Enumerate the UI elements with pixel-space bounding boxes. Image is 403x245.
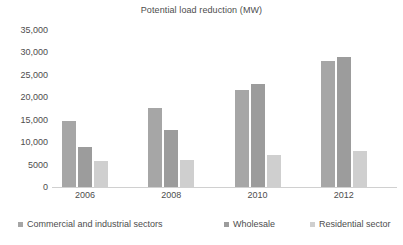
bar <box>337 57 351 187</box>
legend-label: Residential sector <box>319 219 391 230</box>
x-axis-tick-label: 2012 <box>319 190 369 200</box>
y-axis-tick-label: 15,000 <box>2 115 48 125</box>
chart-title: Potential load reduction (MW) <box>0 5 403 15</box>
bar <box>353 151 367 187</box>
y-axis: 35,00030,00025,00020,00015,00010,0005000… <box>0 0 48 245</box>
bar <box>78 147 92 187</box>
bar-group-2006 <box>52 30 138 187</box>
x-axis-tick-label: 2010 <box>233 190 283 200</box>
legend-item[interactable]: Residential sector <box>310 219 391 230</box>
y-axis-tick-label: 5000 <box>2 160 48 170</box>
legend-item[interactable]: Wholesale <box>224 219 275 230</box>
plot-area <box>52 30 397 187</box>
legend-swatch-icon <box>18 222 23 227</box>
bar <box>148 108 162 187</box>
x-axis-tick-label: 2008 <box>146 190 196 200</box>
y-axis-tick-label: 30,000 <box>2 47 48 57</box>
bar-group-2008 <box>138 30 224 187</box>
category-axis-line <box>52 187 397 188</box>
y-axis-tick-label: 10,000 <box>2 137 48 147</box>
bar <box>94 161 108 187</box>
bar <box>164 130 178 187</box>
y-axis-tick-label: 0 <box>2 182 48 192</box>
bar <box>267 155 281 187</box>
legend-swatch-icon <box>310 222 315 227</box>
bar-group-2010 <box>225 30 311 187</box>
bar <box>62 121 76 187</box>
chart-legend: Commercial and industrial sectorsWholesa… <box>0 219 403 239</box>
y-axis-tick-label: 25,000 <box>2 70 48 80</box>
y-axis-tick-label: 35,000 <box>2 25 48 35</box>
bar-group-2012 <box>311 30 397 187</box>
chart-container: Potential load reduction (MW) 35,00030,0… <box>0 0 403 245</box>
x-axis-tick-label: 2006 <box>60 190 110 200</box>
bar <box>321 61 335 187</box>
bar <box>180 160 194 187</box>
bar <box>251 84 265 187</box>
y-axis-tick-label: 20,000 <box>2 92 48 102</box>
bar <box>235 90 249 187</box>
legend-item[interactable]: Commercial and industrial sectors <box>18 219 163 230</box>
legend-label: Wholesale <box>233 219 275 230</box>
legend-label: Commercial and industrial sectors <box>27 219 163 230</box>
legend-swatch-icon <box>224 222 229 227</box>
